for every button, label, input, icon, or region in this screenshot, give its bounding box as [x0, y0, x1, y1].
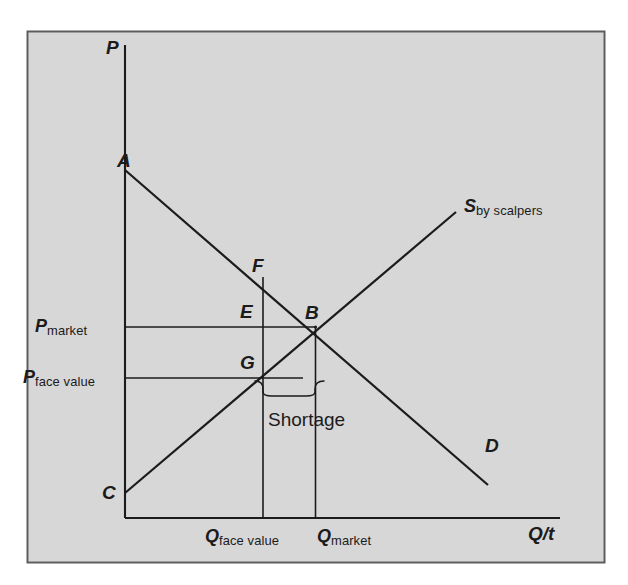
q-market-subscript: market — [331, 533, 371, 548]
supply-curve-label: Sby scalpers — [464, 197, 543, 218]
price-axis-label: P — [106, 38, 119, 57]
q-market-label: Qmarket — [317, 527, 371, 548]
point-label-c: C — [102, 483, 116, 502]
p-face-value-label: Pface value — [23, 368, 95, 389]
point-label-a: A — [117, 151, 131, 170]
diagram-canvas — [0, 0, 628, 585]
q-face-value-subscript: face value — [219, 533, 279, 548]
q-face-value-symbol: Q — [205, 526, 219, 546]
point-label-g: G — [240, 353, 255, 372]
p-market-label: Pmarket — [35, 317, 87, 338]
supply-curve-subscript: by scalpers — [476, 203, 543, 218]
point-label-b: B — [305, 303, 319, 322]
point-label-e: E — [240, 302, 253, 321]
q-market-symbol: Q — [317, 526, 331, 546]
demand-curve-label: D — [485, 436, 499, 455]
figure-root: P Q/t Sby scalpers D A F E B G C Pmarket… — [0, 0, 628, 585]
q-face-value-label: Qface value — [205, 527, 279, 548]
supply-curve-symbol: S — [464, 196, 476, 216]
price-axis-symbol: P — [106, 37, 119, 58]
p-market-symbol: P — [35, 316, 47, 336]
p-face-value-symbol: P — [23, 367, 35, 387]
p-face-value-subscript: face value — [35, 374, 95, 389]
demand-curve-symbol: D — [485, 435, 499, 456]
p-market-subscript: market — [47, 323, 87, 338]
point-label-f: F — [252, 256, 264, 275]
quantity-axis-label: Q/t — [528, 524, 554, 543]
shortage-annotation-label: Shortage — [268, 410, 345, 429]
quantity-axis-symbol: Q/t — [528, 523, 554, 544]
equilibrium-point-marker — [314, 325, 317, 328]
